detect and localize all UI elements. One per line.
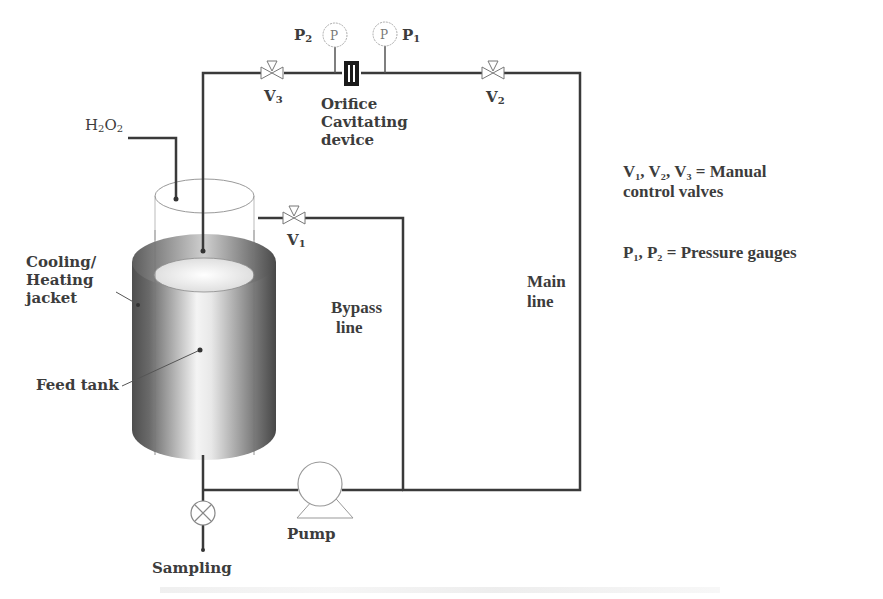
- valve-v1-icon: [283, 206, 305, 224]
- gauge-p1-letter: P: [380, 26, 388, 44]
- bypass-line-pipe: [258, 218, 403, 490]
- schematic-canvas: [0, 0, 883, 599]
- label-main-line: Main line: [527, 272, 566, 312]
- label-v1: V1: [287, 231, 306, 253]
- valve-v3-icon: [261, 61, 283, 79]
- orifice-device-icon: [344, 61, 359, 86]
- feed-tank-top: [155, 179, 254, 240]
- faded-caption: [160, 587, 720, 593]
- return-pipe: [201, 73, 266, 254]
- sampling-valve-icon: [191, 501, 215, 525]
- legend-valves: V₁, V₂, V₃ = Manual control valves: [623, 162, 766, 202]
- label-bypass-line: Bypass line: [331, 298, 382, 338]
- label-v2: V2: [486, 88, 505, 110]
- label-feed-tank: Feed tank: [36, 376, 119, 394]
- legend-gauges: P₁, P₂ = Pressure gauges: [623, 243, 797, 263]
- label-p1: P1: [402, 26, 420, 48]
- label-pump: Pump: [287, 525, 336, 543]
- label-p2: P2: [294, 26, 312, 48]
- label-cooling-heating-jacket: Cooling/ Heating jacket: [26, 253, 96, 307]
- h2o2-feed-pipe: [128, 138, 179, 202]
- label-h2o2: H2O2: [85, 116, 123, 138]
- gauge-p2-letter: P: [330, 27, 338, 45]
- label-v3: V3: [264, 87, 283, 109]
- valve-v2-icon: [482, 61, 504, 79]
- label-orifice-cavitating-device: Orifice Cavitating device: [321, 95, 408, 149]
- cooling-heating-jacket: [132, 230, 276, 460]
- label-sampling: Sampling: [152, 559, 232, 577]
